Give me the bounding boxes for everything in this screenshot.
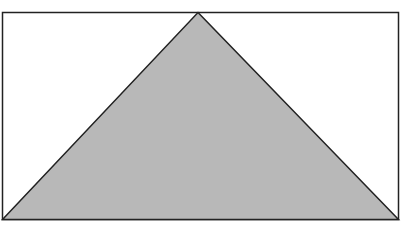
inscribed-triangle	[3, 13, 399, 220]
rectangle-triangle-diagram	[0, 0, 407, 233]
